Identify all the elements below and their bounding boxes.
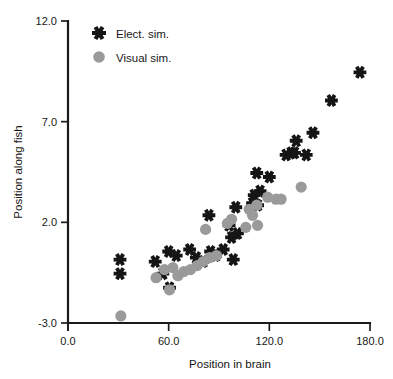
point-visual-1: [150, 272, 161, 283]
point-visual-14: [226, 214, 237, 225]
x-tick-label-1: 60.0: [158, 335, 179, 347]
point-elect-31: [325, 94, 338, 107]
x-tick-label-3: 180.0: [356, 335, 384, 347]
point-elect-24: [263, 171, 276, 184]
point-visual-12: [211, 250, 222, 261]
point-visual-17: [247, 210, 258, 221]
y-tick-label-2: 2.0: [42, 216, 57, 228]
legend-label-0: Elect. sim.: [116, 28, 169, 40]
point-elect-10: [203, 209, 216, 222]
chart-legend: Elect. sim.Visual sim.: [92, 26, 171, 64]
y-tick-label-3: -3.0: [38, 317, 57, 329]
point-elect-16: [227, 253, 240, 266]
point-visual-18: [251, 200, 262, 211]
legend-marker-visual: [93, 51, 105, 63]
data-points: [114, 66, 367, 322]
point-elect-17: [229, 201, 242, 214]
axis-ticks: [61, 21, 370, 331]
y-tick-label-1: 7.0: [42, 116, 57, 128]
point-elect-32: [354, 66, 367, 79]
point-visual-3: [164, 284, 175, 295]
legend-label-1: Visual sim.: [116, 52, 171, 64]
point-elect-28: [290, 134, 303, 147]
y-axis-label: Position along fish: [12, 125, 24, 218]
y-tick-label-0: 12.0: [36, 15, 57, 27]
point-elect-6: [170, 249, 183, 262]
series-elect-sim: [114, 66, 367, 294]
point-elect-29: [300, 148, 313, 161]
point-visual-23: [296, 182, 307, 193]
axis-tick-labels: 12.07.02.0-3.00.060.0120.0180.0: [36, 15, 384, 347]
point-visual-22: [275, 194, 286, 205]
point-visual-15: [240, 222, 251, 233]
x-tick-label-0: 0.0: [60, 335, 75, 347]
point-visual-10: [200, 224, 211, 235]
point-elect-30: [307, 126, 320, 139]
point-elect-21: [250, 167, 263, 180]
point-visual-0: [115, 310, 126, 321]
point-elect-0: [114, 253, 127, 266]
x-tick-label-2: 120.0: [256, 335, 284, 347]
legend-marker-elect: [92, 26, 106, 40]
point-elect-2: [149, 255, 162, 268]
axes: [68, 21, 370, 323]
point-visual-19: [252, 220, 263, 231]
scatter-chart-figure: 12.07.02.0-3.00.060.0120.0180.0 Elect. s…: [0, 0, 393, 379]
point-elect-1: [114, 267, 127, 280]
x-axis-label: Position in brain: [189, 358, 271, 370]
chart-canvas: 12.07.02.0-3.00.060.0120.0180.0 Elect. s…: [0, 0, 393, 379]
